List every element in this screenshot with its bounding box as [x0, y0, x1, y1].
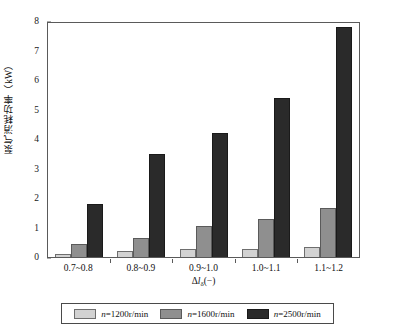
x-tick-mark [235, 259, 236, 263]
bar[interactable] [196, 226, 212, 257]
legend-item[interactable]: n=1200r/min [74, 309, 148, 319]
bar[interactable] [336, 27, 352, 257]
x-axis-title-unit: (−) [204, 276, 216, 286]
plot-area [48, 23, 359, 257]
x-tick-label: 0.9~1.0 [172, 259, 235, 277]
y-tick-label: 4 [34, 135, 39, 145]
bar[interactable] [320, 208, 336, 257]
legend-label: n=2500r/min [274, 309, 321, 319]
x-tick-mark [110, 259, 111, 263]
x-tick-label: 1.1~1.2 [297, 259, 360, 277]
x-axis-ticks: 0.7~0.80.8~0.90.9~1.01.0~1.11.1~1.2 [47, 259, 360, 277]
bar-group [110, 23, 172, 257]
plot-frame [47, 22, 360, 258]
legend-item[interactable]: n=2500r/min [247, 309, 321, 319]
y-tick-label: 3 [34, 165, 39, 175]
bar[interactable] [212, 133, 228, 257]
bar-group [235, 23, 297, 257]
legend: n=1200r/minn=1600r/minn=2500r/min [61, 303, 334, 324]
y-axis-title-label: 泵气消耗功率（kW） [2, 60, 16, 154]
x-axis-title: Δlδ(−) [47, 276, 360, 288]
bar[interactable] [87, 204, 103, 257]
x-tick-mark [172, 259, 173, 263]
y-axis-title: 泵气消耗功率（kW） [2, 60, 16, 210]
x-tick-mark [297, 259, 298, 263]
y-tick-label: 0 [34, 253, 39, 263]
bar-group [297, 23, 359, 257]
bar[interactable] [180, 249, 196, 257]
legend-item[interactable]: n=1600r/min [160, 309, 234, 319]
bar[interactable] [304, 247, 320, 257]
bar[interactable] [55, 254, 71, 257]
y-tick-label: 7 [34, 47, 39, 57]
chart-root: 012345678 泵气消耗功率（kW） 0.7~0.80.8~0.90.9~1… [0, 0, 397, 335]
bar[interactable] [133, 238, 149, 257]
y-tick-label: 1 [34, 224, 39, 234]
x-tick-label: 0.7~0.8 [47, 259, 110, 277]
bar[interactable] [117, 251, 133, 257]
legend-swatch [74, 309, 96, 319]
legend-swatch [160, 309, 182, 319]
y-tick-label: 2 [34, 194, 39, 204]
bar[interactable] [258, 219, 274, 257]
x-tick-label: 1.0~1.1 [235, 259, 298, 277]
legend-label: n=1200r/min [101, 309, 148, 319]
y-tick-label: 8 [34, 17, 39, 27]
bar-group [48, 23, 110, 257]
bar[interactable] [274, 98, 290, 257]
bar[interactable] [242, 249, 258, 257]
y-tick-label: 5 [34, 106, 39, 116]
bar-group [172, 23, 234, 257]
x-tick-label: 0.8~0.9 [110, 259, 173, 277]
legend-swatch [247, 309, 269, 319]
legend-label: n=1600r/min [187, 309, 234, 319]
y-tick-label: 6 [34, 76, 39, 86]
bar[interactable] [71, 244, 87, 257]
bar[interactable] [149, 154, 165, 257]
